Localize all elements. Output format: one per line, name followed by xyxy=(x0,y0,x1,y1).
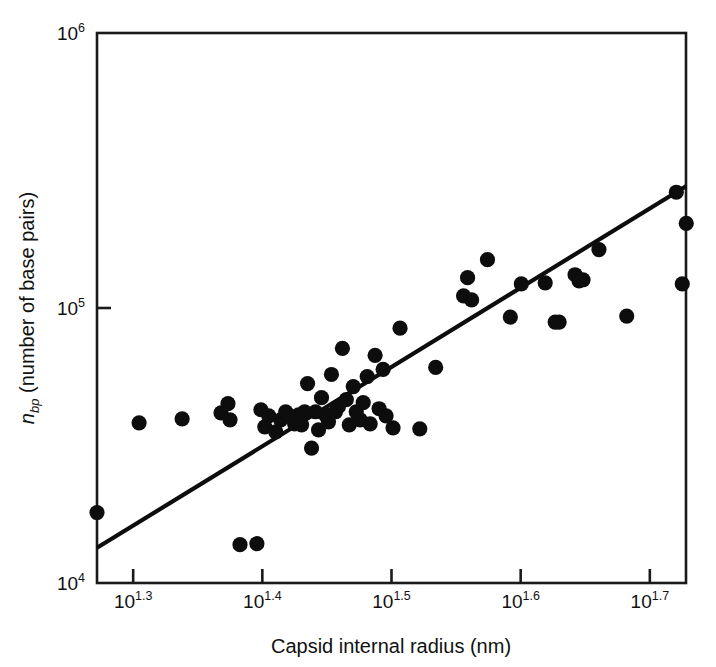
data-point xyxy=(464,292,479,307)
data-point xyxy=(89,505,104,520)
data-point xyxy=(376,362,391,377)
y-tick-label: 106 xyxy=(57,21,85,44)
data-point xyxy=(675,276,690,291)
plot-frame xyxy=(97,33,686,583)
data-point xyxy=(324,367,339,382)
x-tick-label: 101.5 xyxy=(372,589,411,612)
data-point xyxy=(552,314,567,329)
y-axis-subscript: bp xyxy=(27,399,42,413)
data-point xyxy=(356,395,371,410)
x-axis-tick-labels: 101.3101.4101.5101.6101.7 xyxy=(114,589,669,612)
plot-canvas: 101.3101.4101.5101.6101.7 104105106 Caps… xyxy=(0,0,716,667)
y-axis-title: nbp (number of base pairs) xyxy=(16,192,42,424)
data-point xyxy=(304,440,319,455)
data-point xyxy=(294,417,309,432)
y-axis-title-group: nbp (number of base pairs) xyxy=(16,192,42,424)
data-point xyxy=(132,415,147,430)
axes-frame xyxy=(97,33,686,583)
data-point xyxy=(619,308,634,323)
data-point xyxy=(591,242,606,257)
x-tick-label: 101.4 xyxy=(243,589,282,612)
data-point xyxy=(679,216,694,231)
data-point xyxy=(385,420,400,435)
data-point xyxy=(232,537,247,552)
data-point xyxy=(412,421,427,436)
y-axis-tick-labels: 104105106 xyxy=(57,21,85,594)
data-point xyxy=(669,185,684,200)
x-tick-label: 101.7 xyxy=(631,589,670,612)
data-point xyxy=(503,309,518,324)
data-point xyxy=(428,360,443,375)
data-point xyxy=(538,275,553,290)
x-tick-label: 101.3 xyxy=(114,589,153,612)
y-tick-label: 105 xyxy=(57,296,85,319)
data-point xyxy=(300,376,315,391)
x-axis-title: Capsid internal radius (nm) xyxy=(271,635,511,657)
data-point xyxy=(220,396,235,411)
data-point xyxy=(335,341,350,356)
data-point xyxy=(339,392,354,407)
data-point xyxy=(480,252,495,267)
y-axis-title-rest: (number of base pairs) xyxy=(16,192,38,399)
regression-fit-line xyxy=(97,186,686,548)
data-point xyxy=(514,276,529,291)
y-tick-label: 104 xyxy=(57,571,85,594)
data-point xyxy=(249,536,264,551)
x-tick-label: 101.6 xyxy=(501,589,540,612)
data-point xyxy=(460,270,475,285)
data-point xyxy=(363,416,378,431)
data-point xyxy=(360,369,375,384)
data-point xyxy=(575,272,590,287)
data-point xyxy=(222,412,237,427)
data-point xyxy=(346,379,361,394)
x-axis-ticks xyxy=(133,569,650,583)
scatter-plot-figure: 101.3101.4101.5101.6101.7 104105106 Caps… xyxy=(0,0,716,667)
data-point xyxy=(175,411,190,426)
y-axis-symbol: n xyxy=(16,413,38,424)
data-point xyxy=(392,321,407,336)
data-point xyxy=(367,348,382,363)
data-point xyxy=(314,390,329,405)
